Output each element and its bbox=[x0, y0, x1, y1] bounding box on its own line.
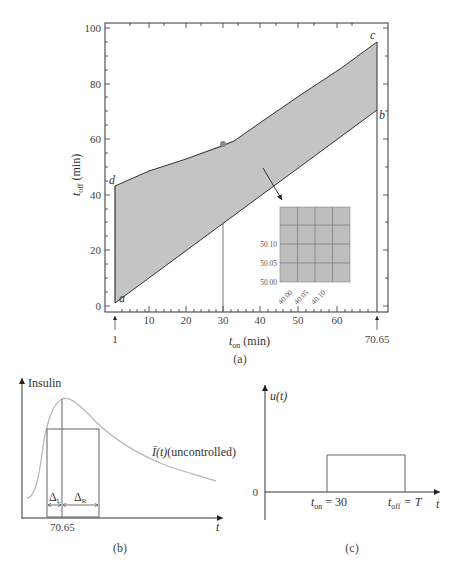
pulse bbox=[327, 455, 405, 492]
corner-label-a: a bbox=[119, 291, 125, 305]
caption-c: (c) bbox=[345, 541, 358, 555]
c-y-label: u(t) bbox=[270, 389, 287, 403]
panel-c: u(t) t 0 ton = 30 toff = T (c) bbox=[253, 385, 441, 555]
panel-b: Insulin t ΔL ΔR 70.65 Ī(t)(uncontrolled)… bbox=[22, 376, 236, 555]
x-marker-70-65: 70.65 bbox=[365, 333, 390, 345]
b-x-marker: 70.65 bbox=[50, 521, 75, 533]
y-tick-label: 60 bbox=[90, 133, 102, 145]
x-tick-label: 10 bbox=[144, 314, 156, 326]
y-tick-label: 40 bbox=[90, 189, 102, 201]
x-tick-label: 50 bbox=[293, 314, 305, 326]
inset-ytick: 50.00 bbox=[260, 278, 277, 287]
x-tick-label: 40 bbox=[255, 314, 267, 326]
b-x-label: t bbox=[216, 520, 220, 534]
highlight-point bbox=[220, 141, 226, 147]
y-axis-label: toff (min) bbox=[69, 154, 85, 196]
inset-zoom: 50.10 50.05 50.00 40.00 40.05 40.10 bbox=[260, 207, 350, 306]
inset-xtick: 40.05 bbox=[292, 288, 310, 306]
toff-label: toff = T bbox=[388, 495, 423, 511]
caption-b: (b) bbox=[113, 541, 127, 555]
ton-label: ton = 30 bbox=[311, 495, 347, 511]
figure-canvas: 50.10 50.05 50.00 40.00 40.05 40.10 bbox=[0, 0, 466, 569]
delta-r-label: ΔR bbox=[74, 490, 87, 505]
x-axis-label: ton (min) bbox=[229, 334, 270, 350]
panel-a: 50.10 50.05 50.00 40.00 40.05 40.10 bbox=[69, 22, 390, 366]
inset-xtick: 40.00 bbox=[276, 288, 294, 306]
corner-label-b: b bbox=[379, 108, 385, 122]
c-x-label: t bbox=[436, 497, 440, 511]
c-zero-label: 0 bbox=[253, 486, 259, 498]
x-marker-1: 1 bbox=[112, 333, 118, 345]
y-tick-label: 20 bbox=[90, 244, 102, 256]
x-tick-label: 20 bbox=[181, 314, 193, 326]
b-y-label: Insulin bbox=[28, 376, 61, 390]
curve-label: Ī(t)(uncontrolled) bbox=[151, 445, 236, 459]
delta-l-label: ΔL bbox=[49, 490, 61, 505]
caption-a: (a) bbox=[233, 352, 246, 366]
corner-label-c: c bbox=[370, 28, 376, 42]
inset-xtick: 40.10 bbox=[309, 288, 327, 306]
inset-ytick: 50.10 bbox=[260, 240, 277, 249]
y-tick-label: 100 bbox=[85, 22, 102, 34]
x-tick-label: 60 bbox=[332, 314, 344, 326]
corner-label-d: d bbox=[109, 173, 116, 187]
inset-ytick: 50.05 bbox=[260, 259, 277, 268]
y-tick-label: 0 bbox=[96, 300, 102, 312]
x-tick-label: 30 bbox=[218, 314, 230, 326]
y-tick-label: 80 bbox=[90, 78, 102, 90]
